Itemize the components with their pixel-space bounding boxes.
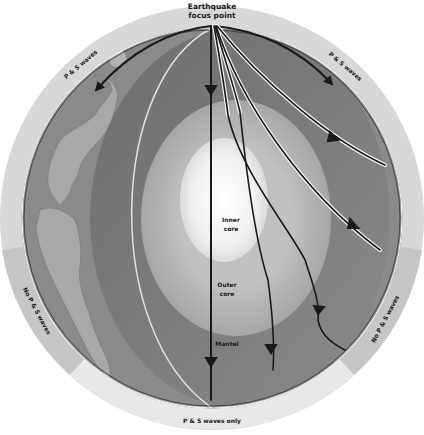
inner-core-label-line1: Inner <box>222 216 240 223</box>
inner-core <box>180 138 268 262</box>
outer-core-label-line1: Outer <box>217 281 236 288</box>
ps-waves-only-label: P & S waves only <box>183 417 241 425</box>
focus-label-line2: focus point <box>188 11 236 20</box>
inner-core-label-line2: core <box>224 225 239 232</box>
mantle-label: Mantel <box>215 340 238 347</box>
focus-label-line1: Earthquake <box>188 2 236 11</box>
earth-diagram: Earthquake focus point Inner core Outer … <box>0 0 424 435</box>
outer-core-label-line2: core <box>220 290 235 297</box>
